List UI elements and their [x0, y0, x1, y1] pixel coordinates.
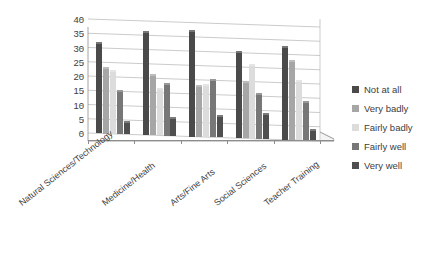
bar-top-face: [143, 31, 149, 33]
y-axis-tick-mark: [80, 33, 84, 34]
bar-top-face: [196, 85, 202, 87]
bar: [303, 101, 309, 141]
bar-top-face: [170, 117, 176, 119]
legend-item-label: Fairly badly: [364, 123, 413, 133]
legend-swatch-icon: [352, 162, 359, 169]
bar: [196, 85, 202, 136]
bar-top-face: [249, 64, 255, 66]
y-axis-tick-mark: [80, 119, 84, 120]
x-axis-tick-mark: [320, 140, 321, 144]
x-axis-category-label: Medicine/Health: [100, 160, 157, 208]
bar: [282, 46, 288, 140]
bar: [256, 93, 262, 139]
bar: [203, 84, 209, 137]
bars-layer: [88, 19, 320, 141]
bar: [243, 81, 249, 138]
bar: [157, 88, 163, 135]
legend-item-label: Very well: [364, 161, 402, 171]
legend-item-label: Very badly: [364, 104, 408, 114]
legend-swatch-icon: [352, 86, 359, 93]
bar: [263, 113, 269, 139]
bar: [310, 129, 316, 140]
bar-top-face: [164, 83, 170, 85]
bar: [249, 64, 255, 138]
y-axis-tick-mark: [80, 133, 84, 134]
x-axis-tick-mark: [274, 140, 275, 144]
chart-legend: Not at allVery badlyFairly badlyFairly w…: [352, 80, 434, 175]
y-axis-tick-mark: [80, 62, 84, 63]
bar-top-face: [96, 42, 102, 44]
legend-item[interactable]: Very well: [352, 156, 434, 175]
y-axis: 4035302520151050: [58, 12, 84, 148]
bar-top-face: [256, 93, 262, 95]
bar-top-face: [303, 101, 309, 103]
x-axis-tick-mark: [181, 140, 182, 144]
bar: [103, 67, 109, 134]
legend-item[interactable]: Not at all: [352, 80, 434, 99]
bar-top-face: [217, 115, 223, 117]
bar: [117, 90, 123, 134]
bar-top-face: [282, 46, 288, 48]
bar: [124, 121, 130, 134]
legend-item[interactable]: Fairly well: [352, 137, 434, 156]
legend-swatch-icon: [352, 143, 359, 150]
bar: [110, 70, 116, 134]
bar-top-face: [110, 70, 116, 72]
bar-chart: 4035302520151050 Natural Sciences/Techno…: [0, 0, 436, 272]
x-axis-category-label: Arts/Fine Arts: [168, 167, 217, 208]
legend-item[interactable]: Fairly badly: [352, 118, 434, 137]
bar: [96, 42, 102, 133]
bar-top-face: [117, 90, 123, 92]
bar-top-face: [157, 88, 163, 90]
bar: [164, 83, 170, 136]
bar: [143, 31, 149, 135]
y-axis-tick-mark: [80, 76, 84, 77]
legend-item[interactable]: Very badly: [352, 99, 434, 118]
legend-swatch-icon: [352, 105, 359, 112]
bar-top-face: [243, 81, 249, 83]
x-axis-tick-mark: [227, 140, 228, 144]
bar-top-face: [103, 67, 109, 69]
bar: [289, 60, 295, 140]
bar-top-face: [296, 80, 302, 82]
bar: [170, 117, 176, 136]
bar: [236, 51, 242, 138]
y-axis-tick-mark: [80, 105, 84, 106]
y-axis-tick-mark: [80, 90, 84, 91]
bar-top-face: [310, 129, 316, 131]
x-axis-category-label: Social Sciences: [212, 161, 268, 208]
bar-top-face: [150, 74, 156, 76]
x-axis-labels: Natural Sciences/TechnologyMedicine/Heal…: [0, 146, 340, 226]
bar-top-face: [263, 113, 269, 115]
bar: [296, 80, 302, 140]
legend-swatch-icon: [352, 124, 359, 131]
legend-item-label: Fairly well: [364, 142, 406, 152]
bar-top-face: [289, 60, 295, 62]
x-axis-line: [88, 140, 334, 141]
bar-top-face: [124, 121, 130, 123]
bar-top-face: [236, 51, 242, 53]
y-axis-tick-mark: [80, 48, 84, 49]
y-axis-tick-mark: [80, 19, 84, 20]
legend-item-label: Not at all: [364, 85, 402, 95]
x-axis-tick-mark: [134, 140, 135, 144]
bar: [210, 79, 216, 137]
bar-top-face: [189, 30, 195, 32]
bar: [150, 74, 156, 135]
bar: [217, 115, 223, 138]
x-axis-category-label: Teacher Training: [262, 159, 321, 208]
bar-top-face: [203, 84, 209, 86]
bar: [189, 30, 195, 137]
bar-top-face: [210, 79, 216, 81]
